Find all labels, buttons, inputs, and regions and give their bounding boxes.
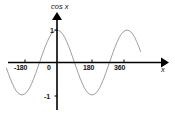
y-axis-title-func: cos	[51, 2, 63, 11]
cosine-function-graph: cos x 1 -1 -180 0 180 360 x	[0, 0, 175, 114]
y-axis-title: cos x	[51, 3, 69, 11]
y-axis-title-var: x	[65, 2, 69, 11]
y-axis-arrowhead	[52, 12, 62, 20]
y-tick-label-minus-one: -1	[44, 93, 50, 100]
x-tick-label-minus180: -180	[14, 64, 27, 71]
x-tick-label-360: 360	[114, 64, 125, 71]
x-tick-label-180: 180	[83, 64, 94, 71]
y-tick-label-one: 1	[50, 27, 54, 34]
x-tick-label-zero: 0	[47, 64, 51, 71]
x-axis-title: x	[161, 66, 165, 74]
graph-canvas	[0, 0, 175, 114]
